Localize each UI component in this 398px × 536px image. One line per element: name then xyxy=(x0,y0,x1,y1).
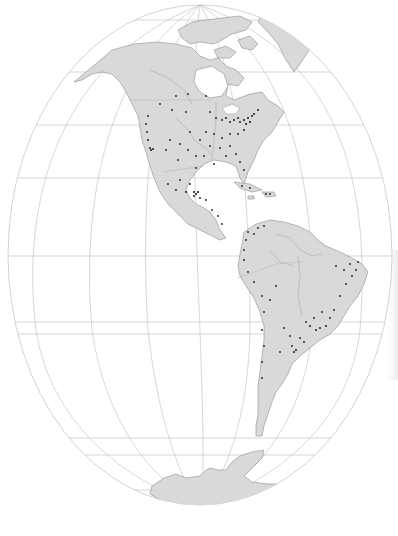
world-map xyxy=(0,0,398,536)
